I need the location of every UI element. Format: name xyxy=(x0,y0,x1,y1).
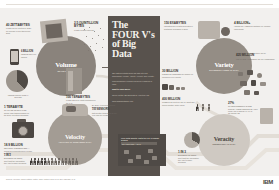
fact-variety-3: 400 MILLION TWEETS are sent per day by a… xyxy=(162,98,196,106)
fact-velocity-2: By 2016, it is projected there will be 1… xyxy=(92,104,118,116)
top-rule xyxy=(6,4,273,5)
page-title: The FOUR V's of Big Data xyxy=(112,20,158,58)
business-leaders-pictogram xyxy=(196,104,213,114)
panel-icon-6 xyxy=(144,160,149,164)
social-media-icons xyxy=(162,84,185,90)
footer: Sources: McKinsey Global Institute, Twit… xyxy=(0,176,279,190)
youtube-icon xyxy=(176,87,180,90)
world-population-pie-chart xyxy=(6,70,28,92)
section-circle-velocity: Velocity ANALYSIS OF STREAMING DATA xyxy=(48,111,102,165)
panel-icon-2 xyxy=(148,149,153,153)
panel-icon-5 xyxy=(128,159,133,163)
pictogram-caption: 1 IN 3 BUSINESS LEADERS don't trust the … xyxy=(4,154,28,164)
fact-variety-0: 150 EXABYTES estimated size of data gene… xyxy=(164,22,195,30)
health-monitor-icon xyxy=(221,27,230,36)
fact-volume-3: 100 TERABYTES of data stored by most com… xyxy=(66,96,96,104)
facebook-icon xyxy=(162,84,168,90)
fact-veracity-1: 27% OF RESPONDENTS IN ONE SURVEY WERE UN… xyxy=(228,102,258,114)
device-cluster-decoration xyxy=(236,70,272,98)
fact-variety-1: 4 BILLION+ HOURS OF VIDEO are watched on… xyxy=(234,22,274,30)
data-center-stripe xyxy=(68,71,73,91)
one-in-three-donut-chart xyxy=(184,132,200,148)
traffic-camera-icon xyxy=(12,118,34,138)
server-rack-inner xyxy=(45,23,62,39)
panel-title: Poor data quality costs the US economy a… xyxy=(121,137,166,142)
sources-text: Sources: McKinsey Global Institute, Twit… xyxy=(6,178,156,180)
center-description: IBM data scientists break big data into … xyxy=(112,72,156,105)
panel-value-bar: $3.1 TRILLION A YEAR xyxy=(121,142,157,145)
fact-velocity-1: 18.9 BILLION NETWORK CONNECTIONS — almos… xyxy=(4,144,34,154)
fact-volume-4: WORLD POPULATION: 7 BILLION xyxy=(4,94,32,98)
mobile-phone-icon xyxy=(10,49,19,65)
veracity-subtitle: UNCERTAINTY OF DATA xyxy=(213,143,236,145)
fact-volume-2: 6 BILLION PEOPLE have cell phones xyxy=(21,50,37,58)
panel-icon-3 xyxy=(136,155,141,159)
fact-veracity-0: 1 IN 3 BUSINESS LEADERS don't trust the … xyxy=(178,151,200,163)
car-window xyxy=(66,106,76,112)
variety-subtitle: DIFFERENT FORMS OF DATA xyxy=(209,69,238,71)
survey-document-icon xyxy=(260,108,273,124)
data-particles-decoration xyxy=(82,26,106,52)
panel-icon-1 xyxy=(124,150,129,154)
people-pictogram-row xyxy=(30,158,78,165)
poor-data-quality-panel: Poor data quality costs the US economy a… xyxy=(118,134,166,166)
section-circle-veracity: Veracity UNCERTAINTY OF DATA xyxy=(198,114,250,166)
fact-variety-2: 30 BILLION PIECES OF CONTENT are shared … xyxy=(162,70,194,78)
infographic-canvas: Volume SCALE OF DATA 40 ZETTABYTES of da… xyxy=(0,8,279,176)
twitter-icon xyxy=(169,85,174,90)
fact-volume-0: 40 ZETTABYTES of data will be created by… xyxy=(6,24,34,34)
panel-icon-4 xyxy=(152,156,157,160)
variety-title: Variety xyxy=(214,61,233,68)
ibm-logo: IBM xyxy=(263,179,273,185)
panel-value: $3.1 TRILLION A YEAR xyxy=(122,143,141,145)
infographic-page: Volume SCALE OF DATA 40 ZETTABYTES of da… xyxy=(0,0,279,190)
fact-variety-4: By 2014, it's anticipated there will be … xyxy=(236,52,276,60)
velocity-title: Velocity xyxy=(65,133,85,140)
velocity-subtitle: ANALYSIS OF STREAMING DATA xyxy=(59,141,92,143)
photo-icon xyxy=(181,87,184,90)
fact-velocity-0: 1 TERABYTE OF TRADE INFORMATION during e… xyxy=(4,106,32,116)
medical-records-illustration xyxy=(198,21,220,39)
veracity-title: Veracity xyxy=(214,135,235,142)
